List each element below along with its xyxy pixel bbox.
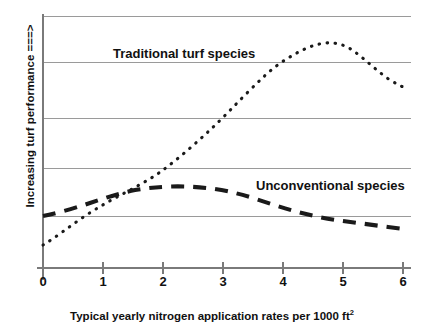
series-label-traditional-turf-species: Traditional turf species — [113, 46, 255, 61]
x-tick-label-5: 5 — [339, 274, 346, 289]
x-tick-label-6: 6 — [399, 274, 406, 289]
x-tick-label-3: 3 — [219, 274, 226, 289]
x-tick-label-1: 1 — [99, 274, 106, 289]
x-tick-label-0: 0 — [39, 274, 46, 289]
chart-figure: Increasing turf performance ===> — [0, 0, 424, 335]
x-axis-title-text: Typical yearly nitrogen application rate… — [70, 310, 350, 322]
x-axis-title-superscript: 2 — [350, 308, 354, 317]
x-tick-label-4: 4 — [279, 274, 286, 289]
series-label-unconventional-species: Unconventional species — [256, 178, 405, 193]
x-tick-label-2: 2 — [159, 274, 166, 289]
series-traditional-turf-species — [43, 43, 403, 245]
x-axis-title: Typical yearly nitrogen application rate… — [0, 308, 424, 322]
